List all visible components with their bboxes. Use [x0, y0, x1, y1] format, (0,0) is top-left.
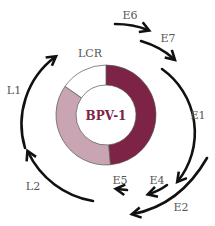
e7-label: E7 — [160, 32, 175, 45]
lcr-label: LCR — [78, 47, 103, 60]
l2-label: L2 — [26, 180, 40, 193]
e2-label: E2 — [173, 201, 188, 214]
e1-arrow-icon — [162, 69, 195, 181]
genome-title: BPV-1 — [86, 109, 127, 123]
e6-label: E6 — [122, 9, 137, 22]
e5-label: E5 — [112, 174, 127, 187]
l1-label: L1 — [7, 84, 21, 97]
e1-label: E1 — [190, 109, 205, 122]
e4-label: E4 — [149, 174, 164, 187]
e2-arrow-icon — [133, 158, 207, 214]
bpv1-genome-map: BPV-1 LCR E6 E7 E1 E2 E4 E5 L2 L1 — [0, 0, 215, 226]
ring-segment-late — [56, 86, 110, 165]
e6-arrow-icon — [115, 24, 148, 30]
l1-arrow-icon — [22, 57, 55, 148]
e5-arrow-icon — [117, 189, 127, 190]
